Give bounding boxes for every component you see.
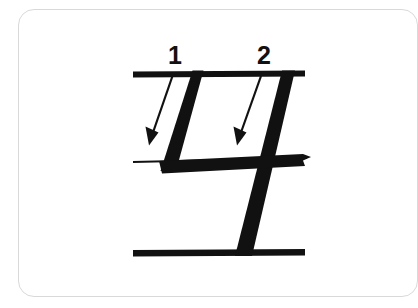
stroke-number-2: 2 bbox=[257, 43, 271, 68]
stroke-1-arrow-head bbox=[146, 127, 159, 146]
top-guideline bbox=[133, 71, 305, 78]
stroke-horizontal-bar bbox=[159, 154, 311, 174]
stroke-number-1: 1 bbox=[168, 43, 182, 68]
stroke-2-direction-arrow bbox=[234, 76, 262, 146]
stroke-1-diagonal bbox=[161, 71, 204, 172]
stroke-1-arrow-shaft bbox=[154, 76, 173, 131]
stroke-1-direction-arrow bbox=[146, 76, 173, 146]
stroke-2-arrow-shaft bbox=[242, 76, 262, 131]
character-strokes-group bbox=[159, 71, 311, 257]
direction-arrows-group bbox=[146, 76, 262, 146]
bottom-guideline bbox=[133, 249, 305, 257]
stroke-2-arrow-head bbox=[234, 127, 247, 146]
